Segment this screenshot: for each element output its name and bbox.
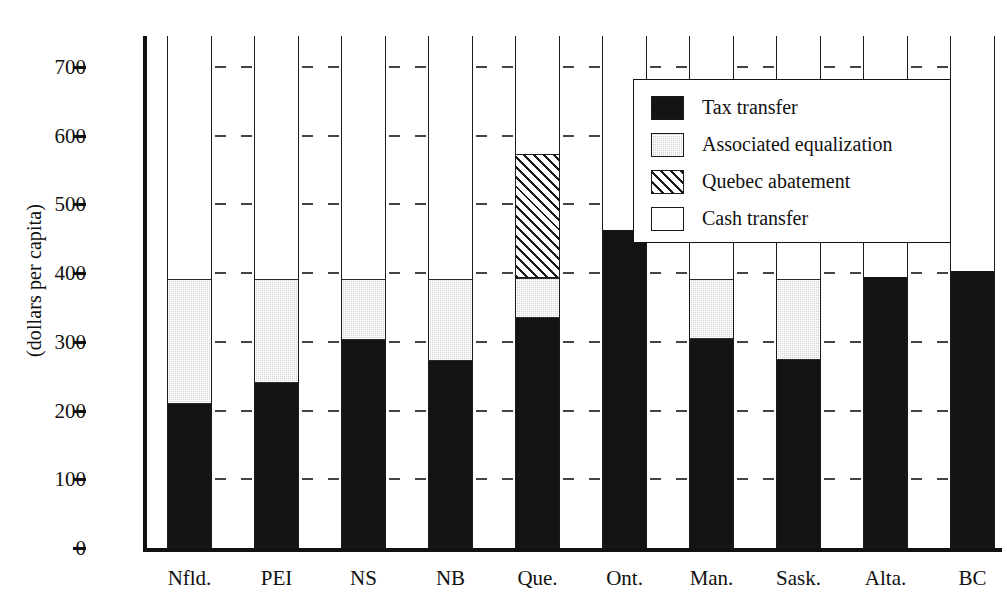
- minor-tick-mark: [650, 272, 661, 274]
- segment-tax-transfer[interactable]: [429, 361, 472, 547]
- minor-tick-mark: [328, 410, 339, 412]
- minor-tick-mark: [676, 478, 687, 480]
- segment-associated-equalization[interactable]: [690, 279, 733, 339]
- minor-tick-mark: [563, 410, 574, 412]
- segment-associated-equalization[interactable]: [168, 279, 211, 404]
- segment-tax-transfer[interactable]: [516, 318, 559, 547]
- minor-tick-mark: [650, 341, 661, 343]
- legend-item-label: Cash transfer: [702, 207, 808, 230]
- minor-tick-mark: [737, 410, 748, 412]
- minor-tick-mark: [676, 272, 687, 274]
- segment-cash-transfer[interactable]: [951, 35, 994, 271]
- bar-pei[interactable]: [254, 36, 299, 548]
- minor-tick-mark: [589, 341, 600, 343]
- minor-tick-mark: [328, 341, 339, 343]
- minor-tick-mark: [415, 272, 426, 274]
- legend-item-label: Tax transfer: [702, 96, 798, 119]
- minor-tick-mark: [328, 478, 339, 480]
- segment-associated-equalization[interactable]: [777, 279, 820, 360]
- minor-tick-mark: [737, 272, 748, 274]
- y-axis-ticks: 0100200300400500600700: [0, 36, 86, 548]
- minor-tick-mark: [415, 203, 426, 205]
- segment-tax-transfer[interactable]: [951, 271, 994, 547]
- x-tick-label: Alta.: [865, 566, 906, 591]
- legend-item[interactable]: Associated equalization: [651, 126, 950, 163]
- minor-tick-mark: [389, 203, 400, 205]
- segment-cash-transfer[interactable]: [342, 35, 385, 279]
- legend-item[interactable]: Cash transfer: [651, 200, 950, 237]
- minor-tick-mark: [215, 66, 226, 68]
- segment-tax-transfer[interactable]: [342, 340, 385, 547]
- minor-tick-mark: [937, 272, 948, 274]
- chart-legend: Tax transferAssociated equalizationQuebe…: [633, 79, 951, 243]
- segment-cash-transfer[interactable]: [429, 35, 472, 279]
- minor-tick-mark: [215, 478, 226, 480]
- minor-tick-mark: [589, 203, 600, 205]
- segment-associated-equalization[interactable]: [342, 279, 385, 340]
- open-white-swatch: [651, 207, 684, 231]
- legend-item-label: Quebec abatement: [702, 170, 850, 193]
- segment-tax-transfer[interactable]: [255, 383, 298, 547]
- minor-tick-mark: [737, 478, 748, 480]
- y-axis-tick-mark: [73, 272, 86, 275]
- minor-tick-mark: [302, 410, 313, 412]
- minor-tick-mark: [502, 66, 513, 68]
- stacked-bar-chart: (dollars per capita) 0100200300400500600…: [0, 0, 1007, 611]
- minor-tick-mark: [215, 272, 226, 274]
- segment-associated-equalization[interactable]: [516, 278, 559, 319]
- segment-cash-transfer[interactable]: [516, 35, 559, 154]
- minor-tick-mark: [476, 203, 487, 205]
- minor-tick-mark: [911, 410, 922, 412]
- minor-tick-mark: [241, 66, 252, 68]
- legend-item[interactable]: Tax transfer: [651, 89, 950, 126]
- minor-tick-mark: [502, 478, 513, 480]
- minor-tick-mark: [241, 410, 252, 412]
- bar-nfld[interactable]: [167, 36, 212, 548]
- x-tick-label: PEI: [261, 566, 293, 591]
- minor-tick-mark: [824, 478, 835, 480]
- bar-nb[interactable]: [428, 36, 473, 548]
- minor-tick-mark: [302, 203, 313, 205]
- minor-tick-mark: [650, 478, 661, 480]
- x-tick-label: Ont.: [606, 566, 643, 591]
- minor-tick-mark: [502, 272, 513, 274]
- minor-tick-mark: [563, 341, 574, 343]
- minor-tick-mark: [850, 410, 861, 412]
- legend-item-label: Associated equalization: [702, 133, 893, 156]
- minor-tick-mark: [824, 66, 835, 68]
- segment-quebec-abatement[interactable]: [516, 154, 559, 278]
- segment-associated-equalization[interactable]: [255, 279, 298, 383]
- legend-item[interactable]: Quebec abatement: [651, 163, 950, 200]
- minor-tick-mark: [589, 135, 600, 137]
- segment-associated-equalization[interactable]: [429, 279, 472, 361]
- segment-cash-transfer[interactable]: [255, 35, 298, 279]
- segment-cash-transfer[interactable]: [168, 35, 211, 279]
- x-tick-label: Sask.: [776, 566, 821, 591]
- minor-tick-mark: [824, 272, 835, 274]
- minor-tick-mark: [302, 478, 313, 480]
- segment-tax-transfer[interactable]: [864, 277, 907, 547]
- segment-tax-transfer[interactable]: [690, 339, 733, 547]
- minor-tick-mark: [415, 478, 426, 480]
- y-axis-tick-mark: [73, 203, 86, 206]
- minor-tick-mark: [328, 135, 339, 137]
- bar-que[interactable]: [515, 36, 560, 548]
- segment-tax-transfer[interactable]: [603, 230, 646, 548]
- segment-tax-transfer[interactable]: [168, 404, 211, 547]
- minor-tick-mark: [911, 272, 922, 274]
- segment-tax-transfer[interactable]: [777, 360, 820, 547]
- minor-tick-mark: [589, 66, 600, 68]
- x-axis-line: [143, 548, 1002, 552]
- y-axis-tick-mark: [73, 341, 86, 344]
- minor-tick-mark: [215, 341, 226, 343]
- minor-tick-mark: [737, 341, 748, 343]
- bar-ns[interactable]: [341, 36, 386, 548]
- minor-tick-mark: [415, 410, 426, 412]
- minor-tick-mark: [389, 135, 400, 137]
- minor-tick-mark: [937, 478, 948, 480]
- minor-tick-mark: [328, 66, 339, 68]
- bar-bc[interactable]: [950, 36, 995, 548]
- diagonal-hatch-swatch: [651, 170, 684, 194]
- minor-tick-mark: [302, 341, 313, 343]
- minor-tick-mark: [911, 66, 922, 68]
